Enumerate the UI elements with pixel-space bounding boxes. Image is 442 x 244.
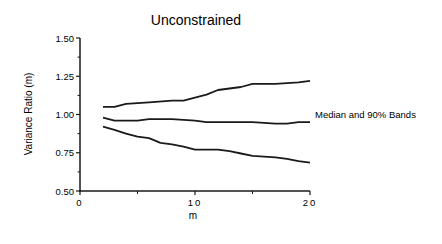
legend-annotation: Median and 90% Bands xyxy=(315,109,416,120)
x-tick-label: 10 xyxy=(188,197,203,208)
chart-title: Unconstrained xyxy=(151,12,241,28)
x-tick-label: 0 xyxy=(76,197,83,208)
y-tick-label: 1.00 xyxy=(56,109,75,120)
y-tick-label: 0.75 xyxy=(56,147,75,158)
y-tick-label: 1.25 xyxy=(56,71,75,82)
y-tick-label: 0.50 xyxy=(56,186,75,197)
chart: Unconstrained 0.500.751.001.251.5001020 … xyxy=(0,0,442,244)
series-lines xyxy=(103,81,310,163)
y-tick-label: 1.50 xyxy=(56,33,75,44)
x-tick-label: 20 xyxy=(303,197,318,208)
lower-band-line xyxy=(103,127,310,163)
x-axis-label: m xyxy=(189,210,197,221)
median-line xyxy=(103,118,310,124)
y-axis-label: Variance Ratio (m) xyxy=(23,73,34,156)
upper-band-line xyxy=(103,81,310,107)
